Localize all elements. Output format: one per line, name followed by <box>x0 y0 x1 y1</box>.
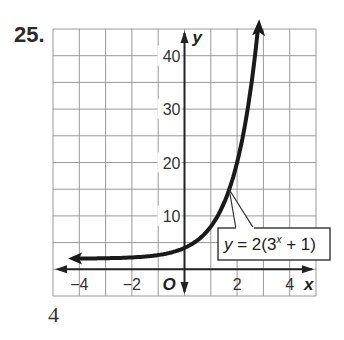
y-axis-arrow-down <box>181 282 189 294</box>
equation-callout: y = 2(3x + 1) <box>218 189 330 260</box>
x-tick-label: 2 <box>233 276 242 293</box>
y-axis-arrow-up <box>181 31 189 43</box>
x-axis-arrow-right <box>302 265 314 273</box>
x-tick-label: −2 <box>123 276 141 293</box>
y-tick-label: 40 <box>163 48 181 65</box>
y-tick-label: 10 <box>163 208 181 225</box>
y-axis-label: y <box>192 28 204 47</box>
y-tick-label: 30 <box>163 101 181 118</box>
x-tick-label: −4 <box>70 276 88 293</box>
origin-label: O <box>163 275 176 294</box>
footer-number: 4 <box>48 302 59 328</box>
y-tick-label: 20 <box>163 155 181 172</box>
x-tick-label: 4 <box>285 276 294 293</box>
equation-label: y = 2(3x + 1) <box>223 234 316 254</box>
x-axis-arrow-left <box>55 265 67 273</box>
graph: −4−22410203040yxO y = 2(3x + 1) <box>0 0 344 340</box>
x-axis-label: x <box>303 275 315 294</box>
callout-pointer <box>229 189 254 229</box>
